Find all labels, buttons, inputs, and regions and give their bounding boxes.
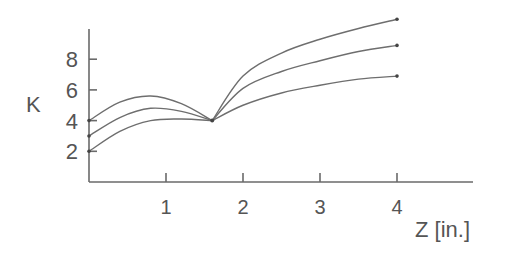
y-tick-label: 6: [66, 78, 78, 103]
curve-middle: [89, 108, 212, 136]
curve-middle: [212, 45, 397, 120]
x-tick-label: 4: [391, 196, 402, 218]
curve-lower: [212, 76, 397, 121]
endpoint-marker: [87, 150, 91, 154]
y-tick-label: 2: [66, 139, 78, 164]
x-tick-label: 3: [314, 196, 325, 218]
curves: [87, 17, 399, 153]
x-tick-label: 2: [237, 196, 248, 218]
curve-upper: [212, 19, 397, 120]
y-ticks: 2468: [66, 47, 97, 164]
endpoint-marker: [395, 44, 399, 48]
convergence-point: [210, 119, 214, 123]
endpoint-marker: [87, 134, 91, 138]
y-axis-label: K: [26, 92, 41, 117]
chart: 1234 2468 K Z [in.]: [0, 0, 507, 254]
endpoint-marker: [395, 74, 399, 78]
x-axis-label: Z [in.]: [415, 217, 470, 242]
endpoint-marker: [87, 119, 91, 123]
axes: [89, 29, 473, 182]
x-ticks: 1234: [160, 173, 402, 218]
x-tick-label: 1: [160, 196, 171, 218]
y-tick-label: 8: [66, 47, 78, 72]
endpoint-marker: [395, 17, 399, 21]
y-tick-label: 4: [66, 109, 78, 134]
